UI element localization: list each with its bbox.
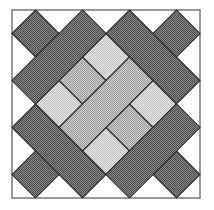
- quilt-pieces: [12, 10, 200, 198]
- quilt-block: [0, 0, 214, 210]
